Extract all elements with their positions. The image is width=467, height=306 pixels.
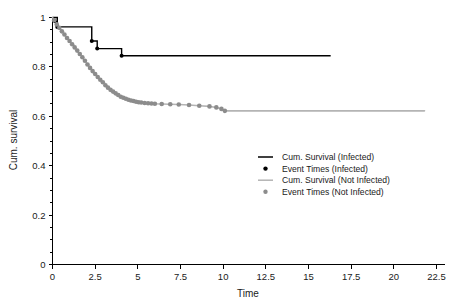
y-tick-label: 0.6	[32, 111, 45, 122]
y-tick-label: 0	[40, 259, 45, 270]
x-tick-label: 22.5	[427, 271, 446, 282]
x-tick-label: 20	[389, 271, 400, 282]
y-axis-title: Cum. survival	[8, 110, 19, 171]
x-tick-label: 10	[218, 271, 229, 282]
event-time-marker	[95, 47, 99, 51]
x-tick-label: 12.5	[257, 271, 276, 282]
survival-chart-figure: 00.20.40.60.81 02.557.51012.51517.52022.…	[0, 0, 467, 306]
legend-label: Event Times (Infected)	[282, 164, 368, 174]
event-time-marker	[153, 101, 158, 106]
x-tick-label: 0	[50, 271, 55, 282]
y-tick-label: 0.4	[32, 160, 45, 171]
event-time-marker	[52, 18, 57, 23]
event-time-marker	[120, 54, 124, 58]
event-time-marker	[168, 102, 173, 107]
event-time-marker	[223, 109, 228, 114]
event-time-marker	[90, 39, 94, 43]
legend-label: Cum. Survival (Infected)	[282, 152, 374, 162]
y-tick-label: 0.2	[32, 210, 45, 221]
x-tick-label: 2.5	[89, 271, 102, 282]
x-tick-label: 5	[135, 271, 140, 282]
legend-dot-swatch	[263, 190, 267, 194]
plot-canvas: 00.20.40.60.81 02.557.51012.51517.52022.…	[0, 0, 467, 306]
legend-label: Cum. Survival (Not Infected)	[282, 175, 390, 185]
x-tick-label: 15	[303, 271, 314, 282]
event-time-marker	[214, 105, 219, 110]
legend-label: Event Times (Not Infected)	[282, 187, 384, 197]
y-tick-label: 1	[40, 12, 45, 23]
event-time-marker	[176, 102, 181, 107]
legend-dot-swatch	[263, 166, 267, 170]
event-time-marker	[207, 104, 212, 109]
x-tick-label: 17.5	[342, 271, 361, 282]
x-axis-title: Time	[237, 288, 259, 299]
x-tick-label: 7.5	[174, 271, 187, 282]
event-time-marker	[187, 103, 192, 108]
y-tick-label: 0.8	[32, 61, 45, 72]
figure-background	[0, 0, 467, 306]
event-time-marker	[197, 103, 202, 108]
event-time-marker	[159, 102, 164, 107]
